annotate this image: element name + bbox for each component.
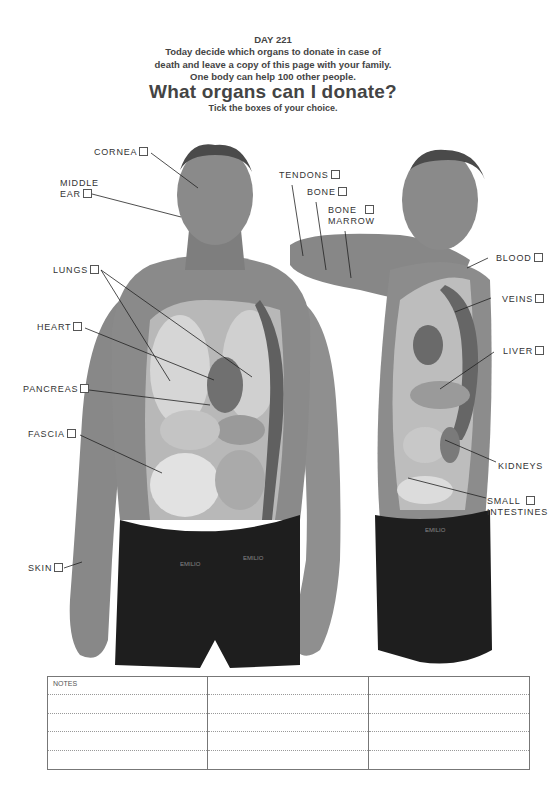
checkbox-blood[interactable] (534, 253, 543, 262)
label-small-intestines: SMALL INTESTINES (487, 496, 548, 518)
notes-label: NOTES (53, 680, 77, 687)
front-figure (70, 144, 341, 668)
checkbox-cornea[interactable] (139, 147, 148, 156)
svg-text:EMILIO: EMILIO (243, 555, 264, 561)
notes-column-3[interactable] (369, 677, 529, 769)
checkbox-tendons[interactable] (331, 170, 340, 179)
checkbox-small-intestines[interactable] (526, 496, 535, 505)
svg-text:EMILIO: EMILIO (425, 527, 446, 533)
notes-line[interactable] (48, 714, 207, 732)
checkbox-bone[interactable] (338, 187, 347, 196)
notes-line[interactable] (208, 732, 367, 750)
label-heart: HEART (37, 322, 82, 333)
checkbox-veins[interactable] (535, 294, 544, 303)
notes-column-2[interactable] (208, 677, 368, 769)
notes-line[interactable] (48, 695, 207, 713)
label-veins: VEINS (502, 294, 544, 305)
label-middle-ear: MIDDLE EAR (60, 178, 99, 200)
checkbox-skin[interactable] (54, 563, 63, 572)
notes-line[interactable] (208, 751, 367, 769)
label-liver: LIVER (503, 346, 544, 357)
notes-line[interactable] (48, 751, 207, 769)
notes-table[interactable]: NOTES (47, 676, 530, 770)
label-kidneys: KIDNEYS (498, 461, 543, 472)
notes-line[interactable] (369, 695, 529, 713)
label-lungs: LUNGS (53, 265, 99, 276)
label-bone: BONE (307, 187, 347, 198)
checkbox-heart[interactable] (73, 322, 82, 331)
notes-line[interactable] (48, 732, 207, 750)
checkbox-pancreas[interactable] (80, 384, 89, 393)
notes-line[interactable] (208, 714, 367, 732)
notes-line[interactable] (208, 677, 367, 695)
label-cornea: CORNEA (94, 147, 148, 158)
notes-column-1[interactable]: NOTES (48, 677, 208, 769)
svg-text:EMILIO: EMILIO (180, 561, 201, 567)
label-fascia: FASCIA (28, 429, 76, 440)
label-tendons: TENDONS (279, 170, 340, 181)
notes-line[interactable] (369, 732, 529, 750)
checkbox-bone-marrow[interactable] (365, 205, 374, 214)
notes-line[interactable] (369, 714, 529, 732)
label-skin: SKIN (28, 563, 63, 574)
notes-line[interactable] (369, 677, 529, 695)
checkbox-liver[interactable] (535, 346, 544, 355)
notes-line[interactable] (369, 751, 529, 769)
checkbox-fascia[interactable] (67, 429, 76, 438)
checkbox-lungs[interactable] (90, 265, 99, 274)
label-pancreas: PANCREAS (23, 384, 89, 395)
notes-line[interactable] (208, 695, 367, 713)
label-bone-marrow: BONE MARROW (328, 205, 375, 227)
checkbox-middle-ear[interactable] (83, 189, 92, 198)
label-blood: BLOOD (496, 253, 543, 264)
